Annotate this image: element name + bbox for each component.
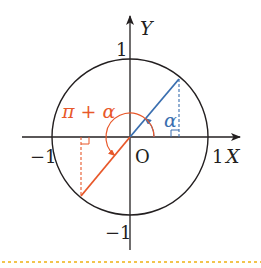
pi-plus-alpha-label: π + α [61, 100, 115, 122]
x-tick-pos: 1 [212, 146, 223, 167]
x-tick-neg: −1 [30, 146, 57, 167]
pi-plus-alpha-ray [81, 137, 130, 196]
pi-plus-alpha-right-angle-marker [81, 137, 89, 144]
unit-circle-diagram: 1 −1 −1 1 X Y O α π + α [0, 0, 261, 268]
alpha-right-angle-marker [171, 130, 179, 137]
y-tick-pos: 1 [116, 39, 127, 60]
alpha-label: α [164, 109, 177, 131]
y-tick-neg: −1 [105, 222, 132, 243]
x-axis-label: X [224, 145, 241, 167]
y-axis-label: Y [140, 17, 155, 39]
origin-label: O [135, 146, 150, 167]
